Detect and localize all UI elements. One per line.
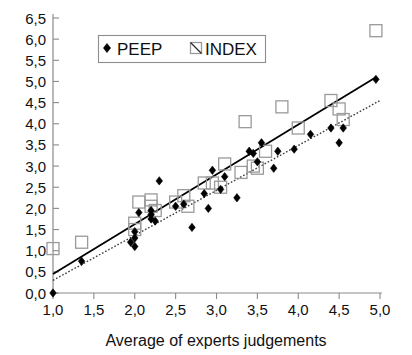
trendlines [53, 77, 380, 280]
y-tick-label: 2,5 [25, 179, 46, 196]
y-tick-label: 3,0 [25, 158, 46, 175]
data-point-peep [275, 147, 282, 155]
data-point-index [276, 101, 288, 113]
data-point-index [370, 25, 382, 37]
chart-canvas: 1,01,52,02,53,03,54,04,55,0 0,00,51,01,5… [0, 0, 412, 355]
x-axis-title: Average of experts judgements [105, 332, 326, 349]
data-point-index [219, 158, 231, 170]
x-tick-label: 4,0 [288, 301, 309, 318]
x-axis-tick-labels: 1,01,52,02,53,03,54,04,55,0 [43, 301, 391, 318]
data-point-peep [373, 75, 380, 83]
data-point-peep [270, 164, 277, 172]
data-point-index [239, 116, 251, 128]
data-point-peep [209, 166, 216, 174]
y-tick-label: 6,0 [25, 31, 46, 48]
data-point-peep [307, 130, 314, 138]
y-tick-label: 2,0 [25, 200, 46, 217]
x-tick-label: 2,5 [165, 301, 186, 318]
x-tick-label: 3,5 [247, 301, 268, 318]
y-tick-label: 0,0 [25, 285, 46, 302]
x-tick-label: 2,0 [124, 301, 145, 318]
data-point-peep [50, 289, 57, 297]
data-point-peep [328, 124, 335, 132]
y-tick-label: 3,5 [25, 136, 46, 153]
y-tick-label: 1,5 [25, 221, 46, 238]
data-point-peep [205, 204, 212, 212]
y-tick-label: 5,5 [25, 52, 46, 69]
data-point-index [76, 236, 88, 248]
y-tick-label: 1,0 [25, 242, 46, 259]
data-point-peep [189, 223, 196, 231]
x-tick-label: 1,5 [83, 301, 104, 318]
data-point-peep [221, 172, 228, 180]
y-tick-label: 4,0 [25, 115, 46, 132]
legend-label-index: INDEX [205, 40, 257, 59]
data-point-peep [136, 208, 143, 216]
y-axis-tick-labels: 0,00,51,01,52,02,53,03,54,04,55,05,56,06… [25, 10, 46, 302]
y-tick-label: 4,5 [25, 94, 46, 111]
y-tick-label: 0,5 [25, 263, 46, 280]
chart-legend: PEEP INDEX [99, 36, 266, 63]
y-tick-label: 5,0 [25, 73, 46, 90]
data-point-peep [201, 189, 208, 197]
data-point-peep [234, 194, 241, 202]
data-point-peep [172, 202, 179, 210]
data-point-peep [156, 177, 163, 185]
y-tick-label: 6,5 [25, 10, 46, 27]
x-tick-label: 1,0 [43, 301, 64, 318]
data-point-peep [336, 139, 343, 147]
legend-label-peep: PEEP [117, 40, 162, 59]
x-tick-label: 3,0 [206, 301, 227, 318]
x-tick-label: 5,0 [370, 301, 391, 318]
data-point-index [133, 196, 145, 208]
scatter-chart: 1,01,52,02,53,03,54,04,55,0 0,00,51,01,5… [0, 0, 412, 355]
x-tick-label: 4,5 [329, 301, 350, 318]
